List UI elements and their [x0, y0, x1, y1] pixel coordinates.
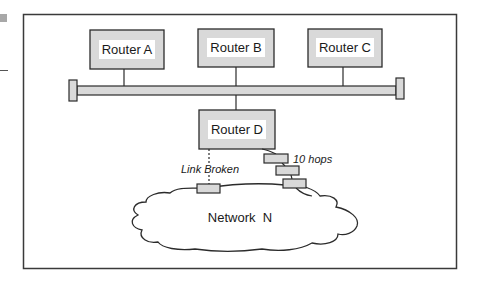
margin-marker [0, 14, 7, 22]
router-d: Router D [199, 110, 275, 149]
router-a-label: Router A [102, 42, 153, 57]
bus-left-terminator [69, 80, 77, 101]
bus-right-terminator [396, 78, 404, 99]
hop-box-2 [276, 166, 299, 175]
network-label: Network N [208, 210, 272, 225]
hop-box-1 [264, 154, 288, 163]
broken-interface-box [197, 184, 220, 193]
router-a: Router A [90, 30, 164, 69]
router-c-label: Router C [319, 40, 371, 55]
router-c: Router C [308, 29, 382, 67]
hops-label: 10 hops [293, 153, 333, 165]
router-d-label: Router D [211, 122, 263, 137]
hop-box-3 [283, 179, 306, 188]
router-b-label: Router B [210, 40, 261, 55]
router-b: Router B [198, 29, 274, 67]
link-broken-label: Link Broken [181, 163, 239, 175]
network-diagram: Router A Router B Router C Router D Link… [0, 0, 479, 285]
